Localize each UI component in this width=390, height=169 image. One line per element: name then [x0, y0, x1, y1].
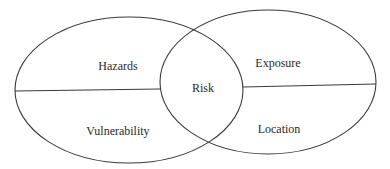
- hazards-label: Hazards: [98, 59, 138, 73]
- location-label: Location: [258, 122, 301, 136]
- vulnerability-label: Vulnerability: [86, 124, 149, 138]
- right-divider-line: [243, 84, 376, 87]
- left-divider-line: [15, 89, 160, 91]
- exposure-label: Exposure: [255, 56, 300, 70]
- venn-diagram: Hazards Vulnerability Risk Exposure Loca…: [0, 0, 390, 169]
- risk-label: Risk: [192, 81, 214, 95]
